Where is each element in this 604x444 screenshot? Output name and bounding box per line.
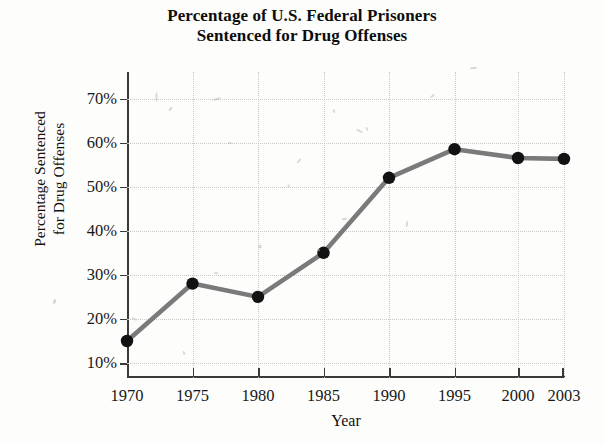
x-tick-label-1970: 1970 <box>97 388 157 404</box>
x-tick-label-1985: 1985 <box>294 388 354 404</box>
y-tick-label-60: 60% <box>59 135 117 151</box>
y-tick-label-10: 10% <box>59 355 117 371</box>
data-series-line <box>127 72 565 378</box>
x-tick-label-1975: 1975 <box>163 388 223 404</box>
tick-y-60 <box>120 143 127 145</box>
plot-area <box>127 72 565 378</box>
x-axis-label: Year <box>127 412 565 430</box>
x-tick-label-1980: 1980 <box>228 388 288 404</box>
y-tick-label-40: 40% <box>59 223 117 239</box>
data-point-1975 <box>186 277 198 289</box>
y-axis-label-line-1: Percentage Sentenced <box>30 59 49 299</box>
tick-y-30 <box>120 275 127 277</box>
data-point-1990 <box>383 172 395 184</box>
chart-title-line-1: Percentage of U.S. Federal Prisoners <box>0 6 604 26</box>
y-tick-label-70: 70% <box>59 91 117 107</box>
data-point-2003 <box>558 153 570 165</box>
x-tick-label-1990: 1990 <box>359 388 419 404</box>
data-point-2000 <box>512 152 524 164</box>
chart-figure: Percentage of U.S. Federal Prisoners Sen… <box>0 0 604 444</box>
scan-speck <box>287 184 289 187</box>
data-point-1970 <box>121 335 133 347</box>
series-polyline <box>127 149 564 341</box>
scan-speck <box>470 67 477 70</box>
x-tick-label-2003: 2003 <box>534 388 594 404</box>
tick-y-40 <box>120 231 127 233</box>
tick-y-10 <box>120 363 127 365</box>
y-tick-label-20: 20% <box>59 311 117 327</box>
scan-speck <box>156 93 158 102</box>
scan-speck <box>52 299 56 305</box>
tick-y-70 <box>120 99 127 101</box>
x-tick-label-1995: 1995 <box>425 388 485 404</box>
data-point-1995 <box>448 143 460 155</box>
chart-title: Percentage of U.S. Federal Prisoners Sen… <box>0 6 604 46</box>
scan-speck <box>214 272 218 274</box>
chart-title-line-2: Sentenced for Drug Offenses <box>0 26 604 46</box>
data-point-1980 <box>252 291 264 303</box>
tick-y-20 <box>120 319 127 321</box>
y-tick-label-50: 50% <box>59 179 117 195</box>
tick-y-50 <box>120 187 127 189</box>
y-tick-label-30: 30% <box>59 267 117 283</box>
